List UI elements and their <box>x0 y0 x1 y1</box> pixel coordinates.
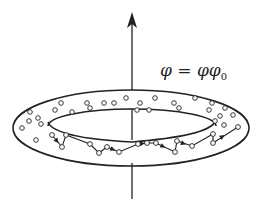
chain-node-circle <box>236 125 241 130</box>
particle-circle <box>231 113 236 118</box>
particle-circle <box>207 108 212 113</box>
particle-circle <box>20 126 25 131</box>
label-equals: = <box>172 60 197 80</box>
particle-circle <box>36 116 41 121</box>
particle-circle <box>177 106 182 111</box>
particle-circle <box>222 123 227 128</box>
particle-circle <box>28 110 33 115</box>
particle-circle <box>218 114 223 119</box>
particle-circle <box>34 138 39 143</box>
chain-node-circle <box>97 151 102 156</box>
particle-circle <box>59 101 64 106</box>
particle-circle <box>85 101 90 106</box>
particle-circle <box>112 101 117 106</box>
particle-circle <box>124 96 129 101</box>
particle-circle <box>213 119 218 124</box>
chain-node-circle <box>211 141 216 146</box>
chain-node-circle <box>50 133 55 138</box>
label-lhs: φ <box>160 60 172 80</box>
chain-node-circle <box>105 145 110 150</box>
particle-circle <box>27 119 32 124</box>
particle-circle <box>102 101 107 106</box>
particle-circle <box>193 96 198 101</box>
chain-node-circle <box>64 133 69 138</box>
particle-circle <box>39 122 44 127</box>
particle-circle <box>138 101 143 106</box>
particle-circle <box>210 101 215 106</box>
particle-circle <box>223 106 228 111</box>
particle-circle <box>53 108 58 113</box>
chain-node-circle <box>136 142 141 147</box>
torus-diagram <box>0 0 262 211</box>
particle-circle <box>172 101 177 106</box>
chain-node-circle <box>173 150 178 155</box>
particle-circle <box>88 106 93 111</box>
chain-node-circle <box>154 141 159 146</box>
label-rhs: φφ <box>197 60 221 80</box>
label-subscript: 0 <box>221 71 227 82</box>
chain-node-circle <box>88 142 93 147</box>
chain-node-circle <box>175 139 180 144</box>
particle-circle <box>135 108 140 113</box>
particle-circle <box>70 110 75 115</box>
chain-node-circle <box>60 145 65 150</box>
chain-node-circle <box>190 144 195 149</box>
particle-circle <box>147 108 152 113</box>
particle-circle <box>153 96 158 101</box>
chain-node-circle <box>145 141 150 146</box>
chain-node-circle <box>117 150 122 155</box>
chain-node-circle <box>211 132 216 137</box>
order-parameter-label: φ = φφ0 <box>160 60 227 82</box>
